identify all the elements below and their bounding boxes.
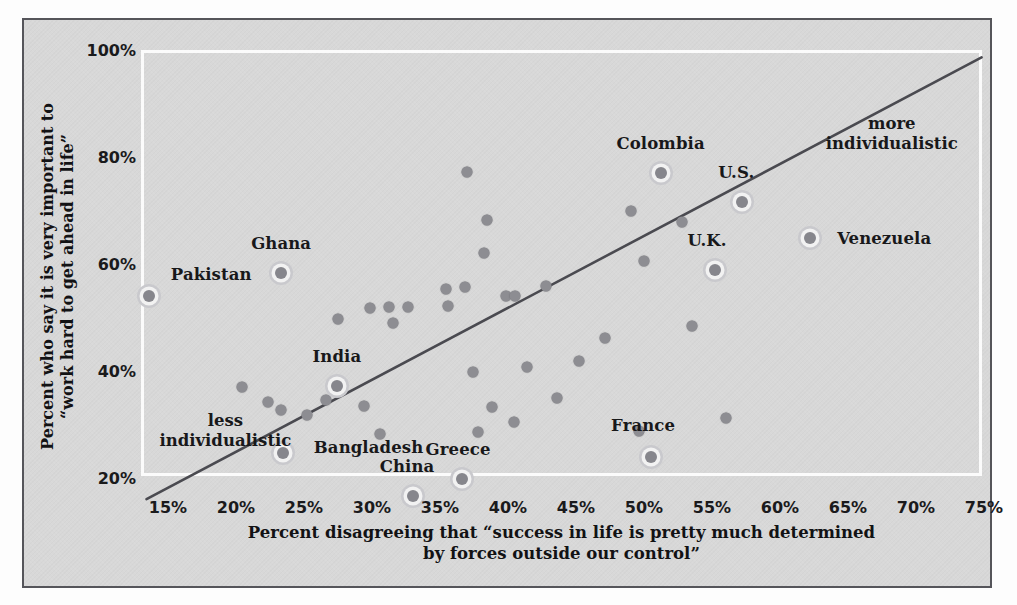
data-point [462,166,473,177]
data-point [677,216,688,227]
data-point-india [331,380,343,392]
y-tick-80: 80% [98,148,136,167]
data-point [302,409,313,420]
annotation-line1: more [826,114,958,133]
x-tick-55: 55% [693,498,731,517]
y-tick-100: 100% [87,41,136,60]
point-label-greece: Greece [426,439,491,458]
data-point [510,291,521,302]
data-point [459,282,470,293]
data-point [686,320,697,331]
point-label-france: France [611,415,675,434]
x-axis-label-line2: by forces outside our control” [141,543,982,564]
data-point [236,381,247,392]
x-axis-label-line1: Percent disagreeing that “success in lif… [141,522,982,543]
x-tick-75: 75% [965,498,1003,517]
data-point-ghana [275,267,287,279]
x-tick-15: 15% [149,498,187,517]
data-point [486,402,497,413]
y-tick-60: 60% [98,255,136,274]
data-point [467,367,478,378]
data-point [443,301,454,312]
data-point-france [645,451,657,463]
point-label-india: India [313,346,362,365]
point-label-china: China [380,456,435,475]
data-point [552,393,563,404]
point-label-bangladesh: Bangladesh [314,438,423,457]
x-tick-35: 35% [421,498,459,517]
data-point [321,394,332,405]
data-point [481,215,492,226]
point-label-colombia: Colombia [617,134,705,153]
data-point-venezuela [804,232,816,244]
annotation-line1: less [159,411,291,430]
x-tick-45: 45% [557,498,595,517]
data-point [720,412,731,423]
y-axis-tick-labels: 100%80%60%40%20% [24,20,136,520]
point-label-u-s: U.S. [718,163,754,182]
data-point [364,303,375,314]
data-point [473,427,484,438]
data-point [387,318,398,329]
plot-area: PakistanGhanaIndiaBangladeshChinaGreeceF… [141,50,982,476]
data-point [541,280,552,291]
x-tick-50: 50% [625,498,663,517]
data-point-colombia [655,167,667,179]
chart-figure: Percent who say it is very important to … [22,18,992,588]
y-tick-40: 40% [98,362,136,381]
point-label-ghana: Ghana [251,234,311,253]
data-point [383,301,394,312]
data-point-u-s [736,196,748,208]
point-label-venezuela: Venezuela [837,228,931,247]
data-point-pakistan [143,290,155,302]
data-point [508,417,519,428]
x-tick-30: 30% [353,498,391,517]
x-tick-20: 20% [217,498,255,517]
data-point [262,397,273,408]
data-point [599,333,610,344]
data-point-u-k [709,264,721,276]
point-label-pakistan: Pakistan [171,265,252,284]
x-tick-60: 60% [761,498,799,517]
data-point [522,361,533,372]
annotation-line2: individualistic [159,430,291,449]
data-point [333,313,344,324]
x-tick-40: 40% [489,498,527,517]
x-tick-65: 65% [829,498,867,517]
data-point [625,205,636,216]
annotation-more: moreindividualistic [826,114,958,153]
data-point [359,401,370,412]
data-point [440,283,451,294]
x-tick-25: 25% [285,498,323,517]
x-axis-tick-labels: 15%20%25%30%35%40%45%50%55%60%65%70%75% [24,482,990,512]
annotation-line2: individualistic [826,133,958,152]
data-point [639,255,650,266]
point-label-u-k: U.K. [687,231,726,250]
x-tick-70: 70% [897,498,935,517]
annotation-less: lessindividualistic [159,411,291,450]
data-point [478,248,489,259]
data-point [402,302,413,313]
data-point [574,355,585,366]
x-axis-label: Percent disagreeing that “success in lif… [141,522,982,565]
